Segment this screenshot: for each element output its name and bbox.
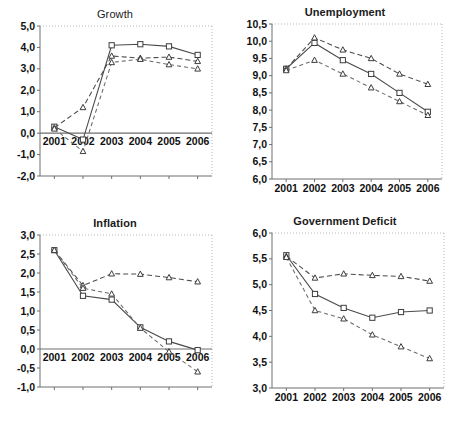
y-tick-label: 8,5 <box>252 86 267 98</box>
data-point-marker <box>427 278 433 283</box>
y-tick-label: 2,0 <box>20 267 35 279</box>
x-tick-label: 2001 <box>275 391 299 403</box>
data-point-marker <box>340 47 346 52</box>
data-point-marker <box>109 291 115 296</box>
x-tick-label: 2002 <box>71 351 95 363</box>
data-point-marker <box>312 291 317 296</box>
chart-panel-inflation: Inflation3,02,52,01,51,00,50,0-0,5-1,020… <box>0 213 230 422</box>
data-point-marker <box>80 104 86 109</box>
x-tick-label: 2006 <box>418 391 442 403</box>
x-tick-label: 2006 <box>186 135 210 147</box>
y-tick-label: 2,5 <box>20 248 35 260</box>
y-tick-label: 1,0 <box>20 305 35 317</box>
y-tick-label: 5,5 <box>252 252 267 264</box>
data-point-marker <box>398 309 403 314</box>
y-tick-label: 4,0 <box>252 330 267 342</box>
y-tick-label: -1,0 <box>17 148 35 160</box>
y-tick-label: -0,5 <box>17 362 35 374</box>
chart-title-inflation: Inflation <box>0 217 230 229</box>
data-point-marker <box>312 35 318 40</box>
data-point-marker <box>427 308 432 313</box>
y-tick-label: 2,0 <box>20 84 35 96</box>
chart-title-unemployment: Unemployment <box>230 6 460 18</box>
x-tick-label: 2001 <box>43 351 67 363</box>
data-point-marker <box>80 293 85 298</box>
plot-area-unemployment: 10,510,09,59,08,58,07,57,06,56,020012002… <box>230 2 460 211</box>
data-point-marker <box>312 275 318 280</box>
y-tick-label: 8,0 <box>252 104 267 116</box>
data-point-marker <box>369 71 374 76</box>
y-tick-label: 4,0 <box>20 41 35 53</box>
series-line-series-1 <box>54 44 197 139</box>
x-tick-label: 2003 <box>100 135 124 147</box>
chart-title-government_deficit: Government Deficit <box>230 215 460 227</box>
data-point-marker <box>312 307 318 312</box>
series-line-series-2 <box>54 250 197 285</box>
data-point-marker <box>341 316 347 321</box>
y-tick-label: 0,0 <box>20 127 35 139</box>
data-point-marker <box>166 339 171 344</box>
y-tick-label: 5,0 <box>252 278 267 290</box>
series-line-series-2 <box>54 56 197 128</box>
x-tick-label: 2003 <box>331 182 355 194</box>
data-point-marker <box>195 66 201 71</box>
data-point-marker <box>166 54 172 59</box>
data-point-marker <box>341 271 347 276</box>
x-tick-label: 2002 <box>303 391 327 403</box>
data-point-marker <box>80 148 86 153</box>
data-point-marker <box>195 348 200 353</box>
data-point-marker <box>312 57 318 62</box>
data-point-marker <box>398 344 404 349</box>
y-tick-label: -1,0 <box>17 381 35 393</box>
x-tick-label: 2005 <box>157 135 181 147</box>
y-tick-label: 9,5 <box>252 52 267 64</box>
y-tick-label: 3,0 <box>20 62 35 74</box>
chart-panel-growth: Growth5,04,03,02,01,00,0-1,0-2,020012002… <box>0 4 230 211</box>
y-tick-label: 10,0 <box>247 35 268 47</box>
data-point-marker <box>109 271 115 276</box>
x-tick-label: 2001 <box>274 182 298 194</box>
data-point-marker <box>109 297 114 302</box>
data-point-marker <box>312 40 317 45</box>
x-tick-label: 2003 <box>332 391 356 403</box>
plot-area-government_deficit: 6,05,55,04,54,03,53,02001200220032004200… <box>230 211 460 422</box>
data-point-marker <box>195 369 201 374</box>
data-point-marker <box>370 315 375 320</box>
series-line-series-1 <box>286 43 428 112</box>
plot-area-growth: 5,04,03,02,01,00,0-1,0-2,020012002200320… <box>0 4 230 211</box>
x-tick-label: 2006 <box>416 182 440 194</box>
x-tick-label: 2003 <box>100 351 124 363</box>
y-tick-label: 1,5 <box>20 286 35 298</box>
y-tick-label: 10,5 <box>247 18 268 30</box>
y-tick-label: 7,5 <box>252 121 267 133</box>
plot-area-inflation: 3,02,52,01,51,00,50,0-0,5-1,020012002200… <box>0 213 230 422</box>
data-point-marker <box>341 305 346 310</box>
series-line-series-3 <box>286 60 428 115</box>
data-point-marker <box>340 58 345 63</box>
data-point-marker <box>369 332 375 337</box>
x-tick-label: 2005 <box>389 391 413 403</box>
x-tick-label: 2005 <box>388 182 412 194</box>
chart-panel-government_deficit: Government Deficit6,05,55,04,54,03,53,02… <box>230 211 460 422</box>
y-tick-label: 3,5 <box>252 356 267 368</box>
y-tick-label: 3,0 <box>20 229 35 241</box>
data-point-marker <box>80 137 85 142</box>
y-tick-label: 5,0 <box>20 20 35 32</box>
data-point-marker <box>195 52 200 57</box>
series-line-series-2 <box>286 256 429 281</box>
y-tick-label: 4,5 <box>252 304 267 316</box>
data-point-marker <box>137 271 143 276</box>
x-tick-label: 2001 <box>43 135 67 147</box>
series-line-series-1 <box>54 250 197 350</box>
data-point-marker <box>138 42 143 47</box>
x-tick-label: 2004 <box>129 135 153 147</box>
data-point-marker <box>166 44 171 49</box>
x-tick-label: 2002 <box>303 182 327 194</box>
y-tick-label: -2,0 <box>17 170 35 182</box>
chart-title-growth: Growth <box>0 8 230 20</box>
series-line-series-2 <box>286 38 428 85</box>
y-tick-label: 0,5 <box>20 324 35 336</box>
multi-panel-chart-figure: Growth5,04,03,02,01,00,0-1,0-2,020012002… <box>0 0 460 422</box>
chart-panel-unemployment: Unemployment10,510,09,59,08,58,07,57,06,… <box>230 2 460 211</box>
y-tick-label: 9,0 <box>252 69 267 81</box>
